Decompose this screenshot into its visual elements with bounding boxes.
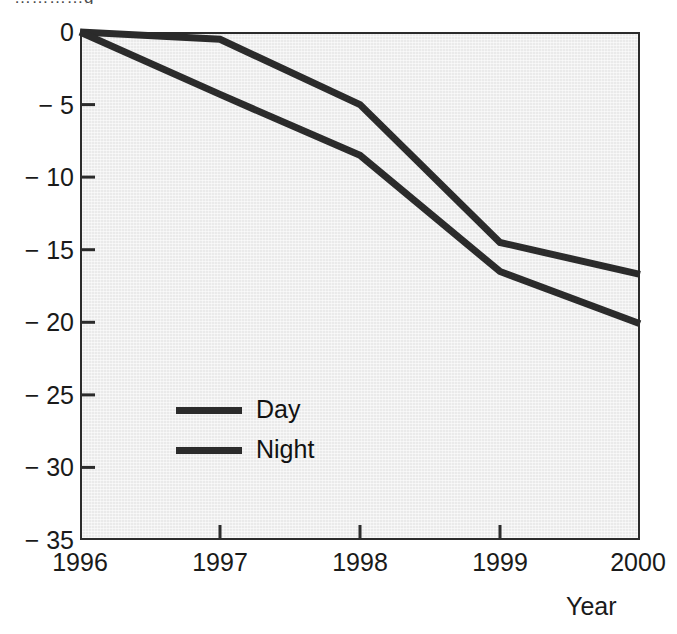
series-line-night bbox=[80, 32, 640, 324]
legend-item-day: Day bbox=[176, 392, 396, 432]
legend-swatch-day bbox=[176, 407, 242, 414]
legend-label-day: Day bbox=[256, 392, 300, 426]
x-axis-ticks bbox=[220, 525, 500, 540]
chart-legend: Day Night bbox=[176, 392, 396, 472]
legend-label-night: Night bbox=[256, 432, 314, 466]
y-axis-ticks bbox=[80, 105, 95, 468]
legend-item-night: Night bbox=[176, 432, 396, 472]
chart-lines-layer bbox=[0, 0, 677, 634]
legend-swatch-night bbox=[176, 447, 242, 454]
chart-figure: …………g 0 − 5 − 10 − 15 − 20 − 25 − 30 − 3… bbox=[0, 0, 677, 634]
